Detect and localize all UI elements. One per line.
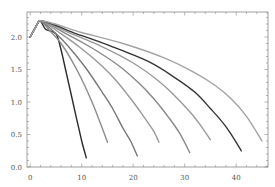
curve-3-line <box>30 21 137 156</box>
x-tick-label: 30 <box>180 174 189 182</box>
line-chart: 010203040 0.00.51.01.52.0 <box>0 0 275 187</box>
x-axis-tick-labels: 010203040 <box>28 174 241 182</box>
curve-8-line <box>30 21 262 141</box>
y-tick-label: 0.0 <box>11 164 22 172</box>
y-tick-label: 2.0 <box>11 34 22 42</box>
y-tick-label: 0.5 <box>11 131 22 139</box>
data-series <box>30 21 262 158</box>
y-tick-label: 1.5 <box>11 66 22 74</box>
x-tick-label: 0 <box>28 174 32 182</box>
y-axis-tick-labels: 0.00.51.01.52.0 <box>11 34 22 172</box>
x-tick-label: 40 <box>232 174 241 182</box>
x-tick-label: 10 <box>77 174 86 182</box>
x-tick-label: 20 <box>129 174 138 182</box>
curve-1-line <box>30 21 86 158</box>
y-tick-label: 1.0 <box>11 99 22 107</box>
